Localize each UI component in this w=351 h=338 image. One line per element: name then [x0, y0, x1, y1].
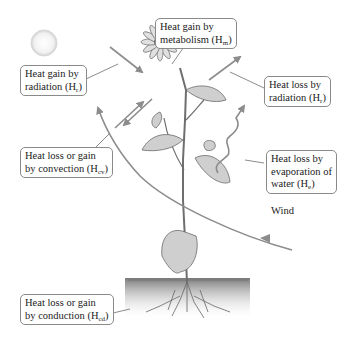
sun-icon	[31, 30, 57, 56]
label-wind: Wind	[271, 205, 294, 216]
label-heat-conduction: Heat loss or gain by conduction (Hcd)	[20, 294, 114, 325]
soil	[125, 278, 250, 320]
label-heat-loss-radiation: Heat loss by radiation (Hr)	[264, 76, 331, 107]
label-heat-loss-evaporation: Heat loss by evaporation of water (He)	[266, 150, 337, 194]
label-heat-convection: Heat loss or gain by convection (Hcv)	[20, 147, 113, 178]
label-heat-gain-radiation: Heat gain by radiation (Hr)	[20, 65, 87, 96]
heat-flow-arrows	[98, 47, 292, 250]
label-heat-gain-metabolism: Heat gain by metabolism (Hm)	[155, 18, 237, 49]
